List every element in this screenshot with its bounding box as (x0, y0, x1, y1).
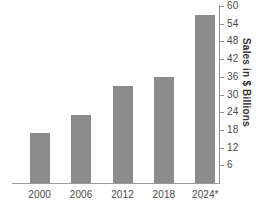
y-tick-54 (219, 24, 224, 25)
y-tick-48 (219, 41, 224, 42)
bar-2024 (195, 15, 215, 183)
bar-2018 (154, 77, 174, 183)
x-axis-label-2024: 2024* (179, 189, 231, 200)
y-tick-label-48: 48 (227, 36, 238, 46)
bars-layer (12, 4, 219, 183)
y-tick-42 (219, 59, 224, 60)
bar-2006 (71, 115, 91, 183)
y-tick-60 (219, 6, 224, 7)
y-tick-6 (219, 165, 224, 166)
y-tick-30 (219, 95, 224, 96)
y-tick-label-12: 12 (227, 143, 238, 153)
y-tick-18 (219, 130, 224, 131)
y-tick-label-30: 30 (227, 90, 238, 100)
y-tick-label-36: 36 (227, 72, 238, 82)
bar-2000 (30, 133, 50, 183)
y-tick-label-60: 60 (227, 1, 238, 11)
y-tick-24 (219, 112, 224, 113)
y-tick-label-18: 18 (227, 125, 238, 135)
bar-2012 (113, 86, 133, 183)
y-tick-36 (219, 77, 224, 78)
y-tick-label-24: 24 (227, 107, 238, 117)
bar-chart: 6121824303642485460 20002006201220182024… (0, 0, 274, 213)
y-axis-title: Sales in $ Billions (241, 38, 252, 52)
y-tick-12 (219, 148, 224, 149)
x-axis-line (12, 183, 219, 184)
y-tick-label-6: 6 (227, 160, 233, 170)
y-tick-label-54: 54 (227, 19, 238, 29)
y-tick-label-42: 42 (227, 54, 238, 64)
